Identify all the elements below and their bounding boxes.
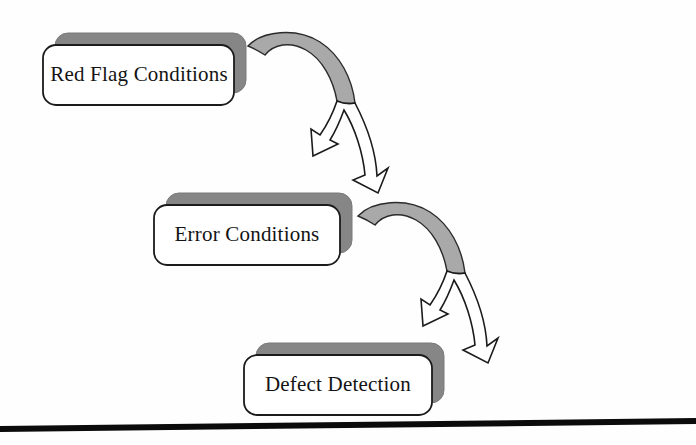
flow-diagram: Red Flag Conditions Error Conditions Def… — [0, 0, 696, 445]
node-error-conditions[interactable]: Error Conditions — [154, 193, 352, 265]
connector-error-to-defect — [358, 203, 498, 363]
curved-arrow-head — [311, 101, 388, 193]
curved-arrow-arc-band — [248, 33, 355, 104]
connector-red-flag-to-error — [248, 33, 388, 193]
node-label-defect-detection: Defect Detection — [265, 372, 411, 396]
node-red-flag-conditions[interactable]: Red Flag Conditions — [43, 33, 246, 105]
page-bottom-rule — [0, 421, 696, 429]
curved-arrow-arc-band — [358, 203, 465, 274]
node-label-error-conditions: Error Conditions — [175, 222, 320, 246]
node-label-red-flag-conditions: Red Flag Conditions — [50, 62, 228, 86]
diagram-canvas: Red Flag Conditions Error Conditions Def… — [0, 0, 696, 445]
node-defect-detection[interactable]: Defect Detection — [244, 343, 444, 415]
